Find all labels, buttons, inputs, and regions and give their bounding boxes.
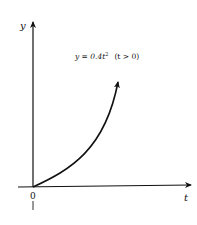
- eq-lhs: y = 0.4: [74, 52, 102, 61]
- graph: y t 0 y = 0.4t2(t > 0): [0, 0, 197, 225]
- equation: y = 0.4t2(t > 0): [74, 51, 139, 61]
- curve: [33, 82, 118, 187]
- origin-label: 0: [30, 191, 36, 201]
- eq-cond: (t > 0): [114, 52, 139, 61]
- x-axis: [18, 185, 191, 187]
- eq-exp: 2: [105, 51, 108, 57]
- x-axis-label: t: [184, 192, 189, 203]
- y-axis-label: y: [19, 20, 26, 31]
